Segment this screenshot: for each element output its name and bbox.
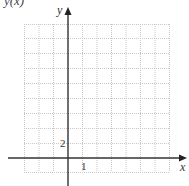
coordinate-plane: y(x) y x 2 1 <box>0 0 189 186</box>
y-axis-label: y <box>57 4 62 16</box>
grid-lines <box>24 24 170 173</box>
x-tick-label: 1 <box>81 161 87 172</box>
grid-svg <box>0 0 189 186</box>
y-axis-arrow-icon <box>65 7 72 15</box>
x-axis-label: x <box>180 161 185 173</box>
y-axis <box>65 7 72 186</box>
function-label: y(x) <box>4 0 24 7</box>
y-tick-label: 2 <box>60 138 66 149</box>
